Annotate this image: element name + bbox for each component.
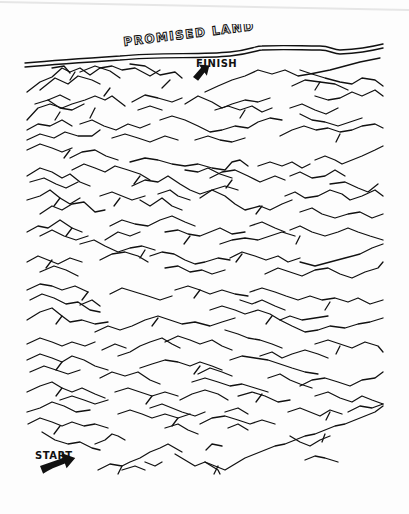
mountain-ridge [27,382,105,398]
mountain-ridge [27,256,82,264]
mountain-ridge [268,374,312,388]
mountain-ridge [300,372,383,386]
mountain-ridge [230,356,318,374]
mountain-ridge [175,286,248,296]
mountain-ridge [290,170,345,178]
mountain-ridge [30,178,78,188]
mountain-ridge [315,392,383,404]
mountain-ridge [290,104,338,114]
mountain-ridge [27,120,72,130]
mountain-spur [56,388,62,396]
mountain-ridge [238,392,290,402]
mountain-ridge [130,64,182,78]
mountain-ridge [27,168,90,186]
mountain-ridge [100,372,160,384]
mountain-ridge [140,198,182,210]
maze-page: PROMISED LAND FINISH START [0,0,409,514]
mountain-ridge [110,216,195,226]
mountain-spur [56,316,62,324]
mountain-ridge [27,284,88,292]
mountain-spur [104,88,110,96]
mountain-ridge [225,408,248,414]
mountain-ridge [210,306,328,320]
mountain-spur [146,396,152,404]
mountain-ridge [198,368,232,376]
mountain-spur [152,318,158,326]
mountain-ridge [27,66,160,92]
mountain-ridge [132,95,182,102]
mountain-ridge [250,222,285,232]
mountain-ridge [27,338,95,346]
mountain-spur [296,236,300,244]
mountain-ridge [175,406,383,470]
mountain-ridge [80,240,155,252]
mountain-ridge [265,262,383,278]
mountain-spur [336,346,340,354]
mountain-spur [240,110,245,118]
mountain-spur [194,290,200,298]
mountain-ridge [280,318,383,332]
mountain-ridge [200,190,292,210]
title-text: PROMISED LAND [123,24,256,49]
mountain-ridge [118,338,180,356]
mountain-ridge [28,418,108,428]
mountain-ridge [165,266,225,274]
start-label: START [35,450,73,461]
mountain-ridge [206,444,222,450]
mountain-ridge [160,116,282,132]
mountain-ridge [210,170,285,182]
finish-label: FINISH [196,58,237,69]
mountain-ridge [102,344,126,350]
mountain-ridge [240,300,285,310]
mountain-ridge [112,134,178,142]
mountain-ridge [35,100,84,110]
mountain-ridge [225,330,282,348]
mountain-ridge [110,288,172,300]
mountain-ridge [315,146,383,164]
mountain-ridge [145,462,162,466]
mountain-ridge [115,388,178,396]
mountain-ridge [150,404,205,416]
mountain-ridge [300,208,383,218]
mountain-spur [66,228,72,236]
mountain-ridge [27,130,100,140]
mountain-ridge [80,120,150,130]
mountain-ridge [27,308,108,324]
mountain-ridge [315,90,383,100]
mountain-ridge [280,124,383,136]
mountain-ridge [27,402,90,412]
mountain-ridge [48,95,70,100]
mountain-ridge [290,226,383,240]
mountain-spur [325,302,330,310]
mountain-spur [140,250,145,258]
mountain-spur [315,82,320,90]
mountain-ridge [315,340,383,352]
mountain-spur [56,362,62,370]
mountain-spur [82,292,88,300]
mountain-ridge [260,350,328,358]
mountain-ridge [105,232,140,240]
mountain-ridge [122,466,145,470]
mountain-spurs [46,72,340,474]
mountain-ridge [30,366,80,374]
mountain-spur [266,316,272,324]
mountain-spur [114,198,120,206]
maze-drawing [0,0,409,514]
mountain-ridge [258,162,310,168]
mountain-ridge [130,158,248,170]
mountain-ridge [40,202,105,214]
mountain-ridge [228,424,248,430]
mountain-ridge [42,432,100,450]
mountain-ridge [165,424,198,434]
mountain-ridge [100,192,145,200]
mountain-ridge [330,182,378,192]
mountain-spur [162,80,170,88]
mountain-ridge [27,190,80,204]
mountain-spur [326,412,330,420]
mountain-ridge [195,136,245,142]
mountain-spur [55,112,60,120]
mountain-ridge [27,144,72,152]
mountain-ridge [200,416,275,424]
mountain-spur [54,426,60,434]
mountain-spur [54,198,60,206]
